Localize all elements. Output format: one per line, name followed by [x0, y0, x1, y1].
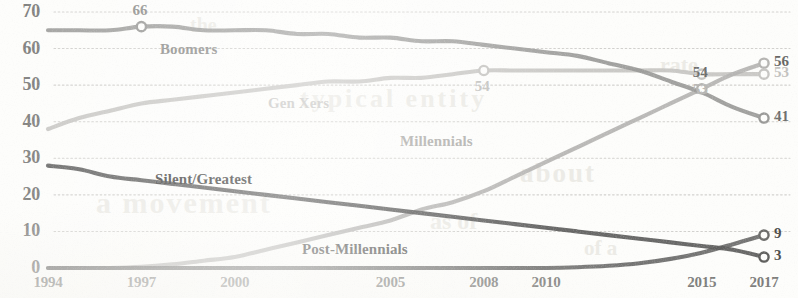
line-chart: typical entity rate a movement about as … [0, 0, 798, 298]
x-axis-tick-label: 2010 [526, 274, 566, 291]
x-axis-tick-label: 2017 [744, 274, 784, 291]
point-value-label: 66 [132, 2, 147, 19]
x-axis-tick-label: 2015 [682, 274, 722, 291]
y-axis-tick-label: 40 [4, 111, 40, 132]
x-axis-tick-label: 1997 [121, 274, 161, 291]
end-value-label: 3 [774, 247, 782, 264]
y-axis-tick-label: 20 [4, 184, 40, 205]
data-point-marker [759, 252, 768, 261]
y-axis-tick-label: 30 [4, 147, 40, 168]
point-value-label: 54 [693, 64, 708, 81]
x-axis-tick-label: 2000 [215, 274, 255, 291]
end-value-label: 53 [774, 64, 789, 81]
y-axis-tick-label: 50 [4, 74, 40, 95]
data-point-marker [137, 22, 146, 31]
series-label-post-millennials: Post-Millennials [302, 241, 408, 258]
data-point-marker [759, 59, 768, 68]
series-label-gen-xers: Gen Xers [268, 95, 329, 112]
series-line-gen-xers [48, 70, 764, 129]
data-point-marker [759, 70, 768, 79]
x-axis-tick-label: 1994 [28, 274, 68, 291]
y-axis-tick-label: 60 [4, 38, 40, 59]
y-axis-tick-label: 70 [4, 1, 40, 22]
y-axis-tick-label: 10 [4, 220, 40, 241]
series-line-millennials [48, 63, 764, 268]
data-point-marker [479, 66, 488, 75]
series-label-silent-greatest: Silent/Greatest [155, 171, 252, 188]
series-label-boomers: Boomers [160, 41, 217, 58]
end-value-label: 41 [774, 108, 789, 125]
x-axis-tick-label: 2008 [464, 274, 504, 291]
x-axis-tick-label: 2005 [370, 274, 410, 291]
point-value-label: 53 [693, 81, 708, 98]
end-value-label: 9 [774, 225, 782, 242]
data-point-marker [759, 113, 768, 122]
series-label-millennials: Millennials [400, 133, 473, 150]
point-value-label: 54 [475, 78, 490, 95]
data-point-marker [759, 230, 768, 239]
